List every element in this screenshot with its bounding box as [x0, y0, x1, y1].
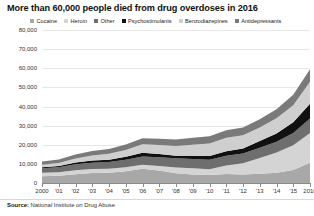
y-tick-label: 20,000 — [19, 142, 37, 148]
y-tick-label: 40,000 — [19, 104, 37, 110]
x-tick — [159, 183, 160, 187]
x-tick-label: '06 — [139, 188, 147, 194]
y-tick-label: 30,000 — [19, 123, 37, 129]
x-tick — [310, 183, 311, 187]
page-title: More than 60,000 people died from drug o… — [7, 3, 307, 14]
x-tick — [243, 183, 244, 187]
chart-card: More than 60,000 people died from drug o… — [0, 0, 314, 216]
legend-item-psychostimulants[interactable]: Psychostimulants — [122, 18, 172, 24]
x-tick — [210, 183, 211, 187]
legend-swatch-icon — [235, 19, 239, 23]
x-tick-label: '09 — [189, 188, 197, 194]
x-tick — [92, 183, 93, 187]
legend-swatch-icon — [179, 19, 183, 23]
legend-swatch-icon — [30, 19, 34, 23]
x-tick-label: '05 — [122, 188, 130, 194]
source-label: Source: — [7, 202, 29, 208]
x-tick-label: '11 — [223, 188, 230, 194]
legend-item-label: Antidepressants — [241, 18, 281, 24]
legend-item-heroin[interactable]: Heroin — [64, 18, 87, 24]
stacked-area-series — [42, 30, 310, 183]
x-tick — [126, 183, 127, 187]
y-tick-label: 60,000 — [19, 65, 37, 71]
x-tick-label: '15 — [289, 188, 297, 194]
x-tick-label: '13 — [256, 188, 264, 194]
legend-swatch-icon — [64, 19, 68, 23]
x-tick — [277, 183, 278, 187]
plot-area — [42, 30, 310, 183]
source-note: Source: National Institute on Drug Abuse — [7, 202, 115, 208]
x-tick — [176, 183, 177, 187]
footer-divider — [0, 199, 314, 200]
y-tick-label: 80,000 — [19, 27, 37, 33]
x-tick-label: '02 — [72, 188, 80, 194]
legend-swatch-icon — [94, 19, 98, 23]
x-tick — [109, 183, 110, 187]
x-axis-labels: 2000'01'02'03'04'05'06'07'08'09'10'11'12… — [0, 188, 314, 198]
x-tick-label: '03 — [88, 188, 96, 194]
x-tick-label: '10 — [206, 188, 214, 194]
legend-swatch-icon — [122, 19, 126, 23]
x-tick — [293, 183, 294, 187]
y-tick-label: 10,000 — [19, 161, 37, 167]
x-tick-label: '08 — [172, 188, 180, 194]
x-tick-label: 2016 — [303, 188, 314, 194]
legend-item-label: Other — [101, 18, 115, 24]
x-tick-label: '14 — [273, 188, 281, 194]
x-tick-label: '12 — [239, 188, 247, 194]
legend-item-label: Benzodiazepines — [185, 18, 228, 24]
x-axis-ticks — [42, 183, 310, 187]
legend-item-label: Heroin — [71, 18, 87, 24]
y-tick-label: 70,000 — [19, 46, 37, 52]
legend-item-antidepressants[interactable]: Antidepressants — [235, 18, 282, 24]
x-tick — [226, 183, 227, 187]
legend-item-other[interactable]: Other — [94, 18, 115, 24]
y-axis-labels: 010,00020,00030,00040,00050,00060,00070,… — [0, 24, 40, 190]
x-tick — [59, 183, 60, 187]
x-tick — [76, 183, 77, 187]
x-tick-label: '01 — [55, 188, 63, 194]
legend-item-benzodiazepines[interactable]: Benzodiazepines — [179, 18, 228, 24]
source-value: National Institute on Drug Abuse — [31, 202, 116, 208]
x-tick — [143, 183, 144, 187]
chart-legend: CocaineHeroinOtherPsychostimulantsBenzod… — [30, 16, 312, 26]
x-tick-label: '04 — [105, 188, 113, 194]
x-tick — [42, 183, 43, 187]
y-tick-label: 0 — [34, 180, 37, 186]
x-tick-label: 2000 — [35, 188, 48, 194]
legend-item-label: Psychostimulants — [128, 18, 172, 24]
x-tick-label: '07 — [155, 188, 163, 194]
x-tick — [193, 183, 194, 187]
y-tick-label: 50,000 — [19, 84, 37, 90]
x-tick — [260, 183, 261, 187]
